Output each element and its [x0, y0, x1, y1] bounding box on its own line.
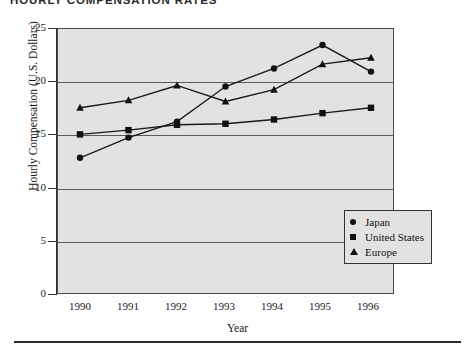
data-point-japan: [125, 134, 131, 140]
data-point-united-states: [319, 110, 325, 116]
y-tick-label: 20: [4, 74, 46, 86]
data-point-japan: [222, 83, 228, 89]
y-axis-title: Hourly Compensation (U.S. Dollars): [27, 0, 39, 231]
legend-label: Europe: [365, 246, 397, 258]
data-point-japan: [77, 155, 83, 161]
legend-label: Japan: [365, 216, 390, 228]
y-axis-labels: 25 20 15 10 5 0: [0, 0, 46, 351]
y-tick-label: 10: [4, 181, 46, 193]
chart-page: HOURLY COMPENSATION RATES 25 20 15 10 5 …: [0, 0, 475, 351]
data-point-united-states: [368, 105, 374, 111]
legend-item-europe: Europe: [350, 244, 426, 259]
y-tick-label: 0: [4, 287, 46, 299]
legend-label: United States: [365, 231, 424, 243]
data-point-united-states: [222, 121, 228, 127]
data-point-japan: [319, 42, 325, 48]
data-point-europe: [367, 54, 375, 61]
data-point-united-states: [77, 131, 83, 137]
data-point-japan: [368, 68, 374, 74]
x-tick-label: 1996: [338, 300, 398, 312]
x-axis-title: Year: [0, 322, 475, 334]
y-tick-label: 15: [4, 127, 46, 139]
chart-legend: Japan United States Europe: [344, 210, 432, 264]
triangle-marker-icon: [350, 248, 362, 255]
data-point-europe: [173, 81, 181, 88]
y-tick-label: 25: [4, 21, 46, 33]
data-point-united-states: [174, 122, 180, 128]
data-point-japan: [271, 65, 277, 71]
chart-figure: 25 20 15 10 5 0 Hourly Compensation (U.S…: [0, 0, 475, 351]
data-point-united-states: [125, 127, 131, 133]
circle-marker-icon: [350, 219, 362, 225]
square-marker-icon: [350, 234, 362, 240]
footer-rule: [14, 341, 461, 343]
legend-item-japan: Japan: [350, 214, 426, 229]
y-tick-label: 5: [4, 234, 46, 246]
data-point-europe: [270, 86, 278, 93]
legend-item-united-states: United States: [350, 229, 426, 244]
data-point-united-states: [271, 116, 277, 122]
